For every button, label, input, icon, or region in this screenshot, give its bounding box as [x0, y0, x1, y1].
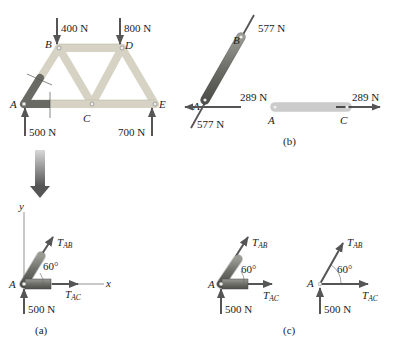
load-label-d: 800 N — [124, 22, 151, 34]
panel-c-left: TAB TAC 60° A 500 N — [207, 236, 280, 315]
reaction-label: 500 N — [324, 303, 351, 315]
force-label-ab-top: 577 N — [258, 22, 285, 34]
caption-c: (c) — [283, 324, 296, 337]
panel-c: TAB TAC 60° A 500 N TAB TAC 60° A 500 N … — [207, 236, 379, 337]
force-label-ac-left: 289 N — [240, 91, 267, 103]
angle-label: 60° — [337, 263, 352, 275]
joint-label-c: C — [83, 112, 91, 124]
transition-arrow-icon — [30, 150, 50, 198]
angle-label: 60° — [43, 260, 58, 272]
panel-b: 577 N 577 N B A 289 N 289 N A C (b) — [185, 15, 380, 148]
load-label-b: 400 N — [61, 22, 88, 34]
reaction-label: 500 N — [225, 303, 252, 315]
tac-label: TAC — [263, 289, 280, 303]
force-arrow-tab — [236, 237, 248, 256]
y-axis-label: y — [18, 200, 24, 212]
end-label-a: A — [192, 100, 200, 112]
tab-label: TAB — [252, 236, 268, 250]
joint-label-e: E — [158, 98, 166, 110]
tab-label: TAB — [57, 236, 73, 250]
joint-label-a: A — [8, 278, 16, 290]
reaction-label-e: 700 N — [118, 126, 145, 138]
joint-label-d: D — [124, 39, 133, 51]
tac-label: TAC — [65, 288, 82, 302]
end-label-c: C — [340, 114, 348, 126]
member-ac-cut — [25, 279, 51, 289]
truss: 400 N 800 N 500 N 700 N B D A C E — [9, 18, 166, 138]
tac-label: TAC — [362, 289, 379, 303]
joint-label-a: A — [207, 278, 215, 290]
reaction-label: 500 N — [28, 303, 55, 315]
joint-label-a: A — [9, 98, 17, 110]
end-label-a: A — [267, 114, 275, 126]
force-label-ac-right: 289 N — [352, 91, 379, 103]
caption-b: (b) — [283, 135, 296, 148]
reaction-label-a: 500 N — [29, 126, 56, 138]
truss-members — [24, 48, 155, 104]
joint-label-a: A — [306, 277, 314, 289]
end-label-b: B — [233, 34, 240, 46]
force-label-ab-bottom: 577 N — [197, 118, 224, 130]
joint-label-b: B — [45, 38, 52, 50]
angle-label: 60° — [241, 263, 256, 275]
truss-diagram: 400 N 800 N 500 N 700 N B D A C E 577 N … — [0, 0, 393, 347]
panel-c-right: TAB TAC 60° A 500 N — [306, 236, 379, 315]
panel-a: y x TAB TAC 60° A 500 N (a) — [8, 200, 111, 337]
x-axis-label: x — [105, 277, 111, 289]
caption-a: (a) — [35, 324, 48, 337]
tab-label: TAB — [347, 236, 363, 250]
